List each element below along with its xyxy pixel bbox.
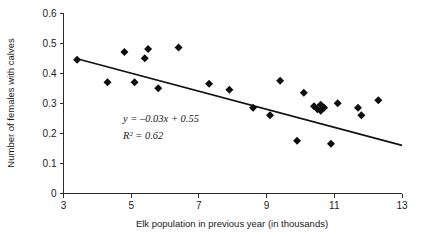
data-point-marker — [327, 140, 335, 148]
y-tick-label: 0.5 — [43, 38, 57, 49]
x-tick-label: 13 — [396, 200, 408, 211]
x-tick-label: 7 — [196, 200, 202, 211]
y-axis-ticks: 00.10.20.30.40.50.6 — [43, 8, 64, 200]
data-points-group — [73, 44, 382, 148]
r-squared-annotation: R² = 0.62 — [122, 130, 164, 141]
data-point-marker — [276, 77, 284, 85]
data-point-marker — [334, 99, 342, 107]
data-point-marker — [175, 44, 183, 52]
data-point-marker — [293, 137, 301, 145]
data-point-marker — [141, 54, 149, 62]
data-point-marker — [357, 111, 365, 119]
y-tick-label: 0.6 — [43, 8, 57, 19]
data-point-marker — [205, 80, 213, 88]
y-tick-label: 0.4 — [43, 68, 57, 79]
chart-canvas: 00.10.20.30.40.50.6 35791113 y = –0.03x … — [0, 0, 426, 237]
data-point-marker — [225, 86, 233, 94]
data-point-marker — [154, 84, 162, 92]
y-tick-label: 0.1 — [43, 158, 57, 169]
x-axis-title: Elk population in previous year (in thou… — [136, 218, 328, 229]
data-point-marker — [144, 45, 152, 53]
equation-annotation: y = –0.03x + 0.55 — [122, 113, 199, 124]
data-point-marker — [354, 104, 362, 112]
data-point-marker — [73, 56, 81, 64]
data-point-marker — [104, 78, 112, 86]
y-tick-label: 0.2 — [43, 128, 57, 139]
y-tick-label: 0.3 — [43, 98, 57, 109]
data-point-marker — [266, 111, 274, 119]
data-point-marker — [374, 96, 382, 104]
scatter-chart-figure: 00.10.20.30.40.50.6 35791113 y = –0.03x … — [0, 0, 426, 237]
x-tick-label: 11 — [329, 200, 340, 211]
y-tick-label: 0 — [51, 188, 57, 199]
x-axis-ticks: 35791113 — [61, 194, 408, 211]
x-tick-label: 9 — [264, 200, 270, 211]
x-tick-label: 3 — [61, 200, 67, 211]
data-point-marker — [300, 89, 308, 97]
x-tick-label: 5 — [128, 200, 134, 211]
axes-group — [64, 13, 403, 194]
y-axis-title: Number of females with calves — [5, 38, 16, 168]
data-point-marker — [120, 48, 128, 56]
data-point-marker — [131, 78, 139, 86]
